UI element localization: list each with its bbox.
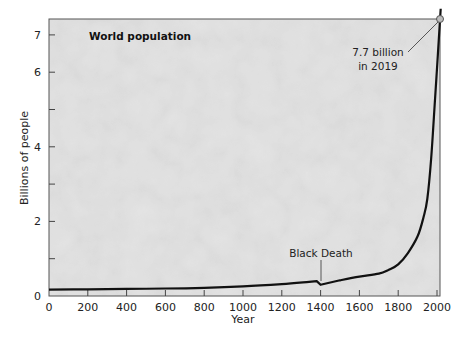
x-tick-label: 1400 [307, 301, 335, 314]
x-axis-title: Year [230, 313, 255, 326]
x-tick-label: 0 [46, 301, 53, 314]
y-tick-label: 6 [34, 66, 41, 79]
x-tick-label: 800 [194, 301, 215, 314]
x-tick-label: 200 [77, 301, 98, 314]
chart-title: World population [89, 30, 191, 42]
x-tick-label: 600 [155, 301, 176, 314]
y-tick-label: 0 [34, 290, 41, 303]
population-chart: 02467 0200400600800100012001400160018002… [0, 0, 463, 344]
x-tick-label: 400 [116, 301, 137, 314]
y-tick-label: 4 [34, 141, 41, 154]
x-tick-label: 1200 [268, 301, 296, 314]
x-tick-label: 1600 [345, 301, 373, 314]
x-tick-label: 1800 [384, 301, 412, 314]
endpoint-label-line2: in 2019 [358, 60, 398, 72]
endpoint-label-line1: 7.7 billion [352, 46, 403, 58]
black-death-label: Black Death [289, 247, 353, 259]
x-tick-label: 2000 [423, 301, 451, 314]
y-tick-label: 2 [34, 215, 41, 228]
endpoint-marker [437, 16, 444, 23]
y-tick-label: 7 [34, 29, 41, 42]
y-axis-title: Billions of people [18, 111, 31, 205]
